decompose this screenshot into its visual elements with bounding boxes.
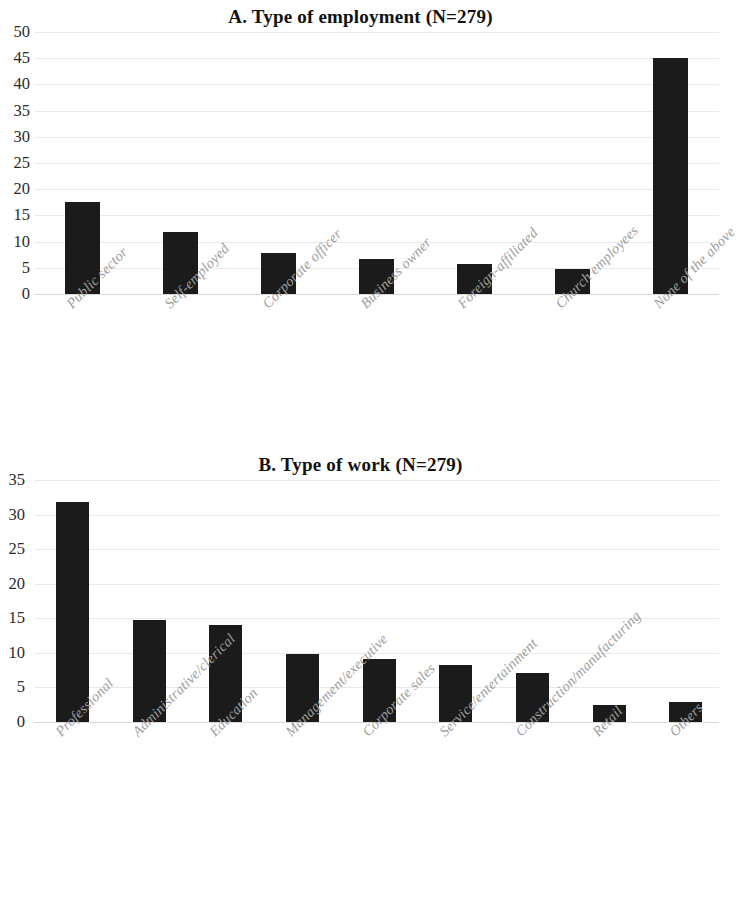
y-axis-tick-label: 5 [22, 258, 30, 278]
y-axis-tick-label: 35 [14, 101, 31, 121]
y-axis-tick-label: 30 [14, 127, 31, 147]
y-axis-tick-label: 50 [14, 22, 31, 42]
y-axis-tick-label: 10 [9, 643, 26, 663]
chart-b-y-axis: 35302520151050 [0, 480, 29, 722]
bar [56, 502, 89, 722]
chart-b-bars [34, 480, 719, 722]
y-axis-tick-label: 25 [14, 153, 31, 173]
chart-panel-a: A. Type of employment (N=279) 5045403530… [0, 0, 721, 440]
chart-a-x-axis-labels: Public sectorSelf-employedCorporate offi… [34, 294, 719, 434]
y-axis-tick-label: 35 [9, 470, 26, 490]
y-axis-tick-label: 30 [9, 505, 26, 525]
y-axis-tick-label: 45 [14, 48, 31, 68]
chart-panel-b: B. Type of work (N=279) 35302520151050 P… [0, 440, 721, 924]
chart-b-x-axis-labels: ProfessionalAdministrative/clericalEduca… [34, 722, 719, 902]
y-axis-tick-label: 20 [14, 179, 31, 199]
chart-b-title: B. Type of work (N=279) [0, 440, 721, 480]
y-axis-tick-label: 5 [17, 677, 25, 697]
y-axis-tick-label: 25 [9, 539, 26, 559]
y-axis-tick-label: 15 [9, 608, 26, 628]
y-axis-tick-label: 20 [9, 574, 26, 594]
chart-a-y-axis: 50454035302520151050 [0, 32, 34, 294]
y-axis-tick-label: 10 [14, 232, 31, 252]
y-axis-tick-label: 15 [14, 205, 31, 225]
y-axis-tick-label: 40 [14, 74, 31, 94]
bar [653, 58, 688, 294]
chart-a-title: A. Type of employment (N=279) [0, 0, 721, 32]
